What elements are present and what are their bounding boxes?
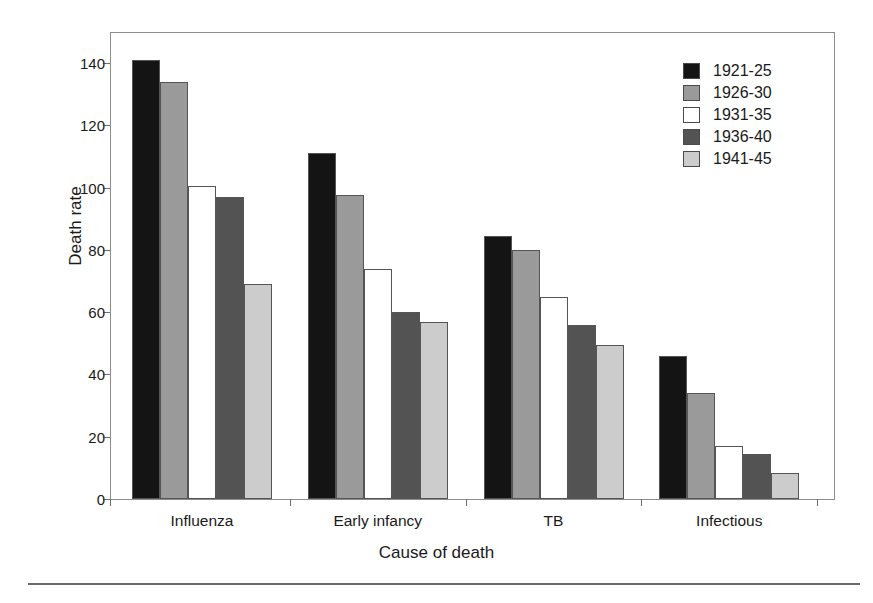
- y-tick-label: 120: [80, 117, 105, 134]
- legend-label: 1926-30: [713, 84, 772, 102]
- y-tick-label: 0: [97, 491, 105, 508]
- y-axis-title: Death rate: [66, 146, 86, 306]
- legend-label: 1936-40: [713, 128, 772, 146]
- bar-influenza-1921-25: [132, 60, 160, 499]
- bottom-divider: [28, 583, 860, 585]
- legend-item-1936-40: 1936-40: [683, 126, 772, 148]
- x-axis-title: Cause of death: [0, 543, 873, 563]
- y-tick-label: 140: [80, 55, 105, 72]
- chart-legend: 1921-251926-301931-351936-401941-45: [683, 60, 772, 170]
- legend-swatch-icon: [683, 63, 700, 79]
- legend-label: 1921-25: [713, 62, 772, 80]
- bar-tb-1931-35: [540, 297, 568, 499]
- x-tick-mark: [641, 499, 642, 506]
- bar-early-infancy-1921-25: [308, 153, 336, 499]
- bar-infectious-1936-40: [743, 454, 771, 499]
- y-tick-label: 60: [88, 304, 105, 321]
- bar-tb-1921-25: [484, 236, 512, 499]
- bar-infectious-1921-25: [659, 356, 687, 499]
- bar-infectious-1941-45: [771, 473, 799, 499]
- category-label-early-infancy: Early infancy: [333, 512, 422, 530]
- legend-label: 1941-45: [713, 150, 772, 168]
- bar-early-infancy-1926-30: [336, 195, 364, 499]
- legend-swatch-icon: [683, 151, 700, 167]
- bar-chart-figure: 020406080100120140 InfluenzaEarly infanc…: [0, 0, 873, 603]
- category-label-tb: TB: [544, 512, 564, 530]
- legend-label: 1931-35: [713, 106, 772, 124]
- x-tick-mark: [466, 499, 467, 506]
- legend-swatch-icon: [683, 129, 700, 145]
- bar-early-infancy-1941-45: [420, 322, 448, 500]
- y-tick-label: 40: [88, 366, 105, 383]
- category-label-infectious: Infectious: [696, 512, 762, 530]
- bar-infectious-1926-30: [687, 393, 715, 499]
- bar-influenza-1926-30: [160, 82, 188, 499]
- legend-item-1931-35: 1931-35: [683, 104, 772, 126]
- legend-item-1926-30: 1926-30: [683, 82, 772, 104]
- legend-item-1921-25: 1921-25: [683, 60, 772, 82]
- legend-item-1941-45: 1941-45: [683, 148, 772, 170]
- bar-tb-1941-45: [596, 345, 624, 499]
- category-label-influenza: Influenza: [171, 512, 234, 530]
- bar-infectious-1931-35: [715, 446, 743, 499]
- bar-early-infancy-1931-35: [364, 269, 392, 499]
- bar-tb-1936-40: [568, 325, 596, 499]
- x-tick-mark: [817, 499, 818, 506]
- bar-influenza-1936-40: [216, 197, 244, 499]
- y-tick-label: 80: [88, 241, 105, 258]
- x-tick-mark-origin: [110, 499, 111, 506]
- bar-early-infancy-1936-40: [392, 312, 420, 499]
- legend-swatch-icon: [683, 107, 700, 123]
- bar-influenza-1931-35: [188, 186, 216, 499]
- bar-tb-1926-30: [512, 250, 540, 499]
- x-tick-mark: [290, 499, 291, 506]
- y-tick-label: 20: [88, 428, 105, 445]
- bar-influenza-1941-45: [244, 284, 272, 499]
- legend-swatch-icon: [683, 85, 700, 101]
